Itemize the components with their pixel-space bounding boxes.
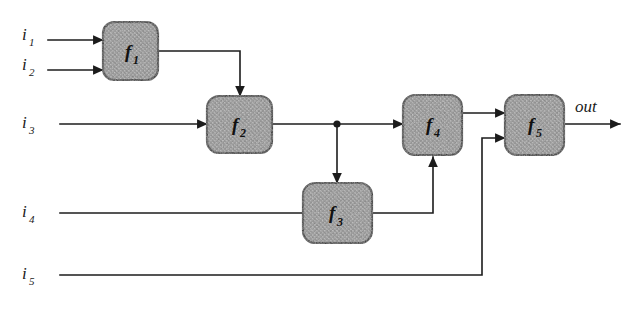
input-label-i3-subscript: 3 [28,124,35,136]
wire-f1-to-f2 [158,51,240,96]
node-f1[interactable]: f 1 [103,22,158,80]
diagram-canvas: f 1 f 2 f 3 f 4 f 5 [0,0,638,309]
node-f2[interactable]: f 2 [207,96,272,153]
node-f2-box [207,96,272,153]
output-label-out: out [575,97,598,116]
input-label-i3: i 3 [22,113,35,136]
node-f1-subscript: 1 [133,53,139,67]
input-label-i2: i 2 [22,55,35,78]
input-label-i5-base: i [22,264,27,283]
node-f5[interactable]: f 5 [505,95,564,155]
node-f3-box [303,183,372,243]
node-f4[interactable]: f 4 [403,95,462,155]
input-label-i3-base: i [22,113,27,132]
input-label-i4-subscript: 4 [29,213,35,225]
input-label-i5-subscript: 5 [29,275,35,287]
input-label-i2-base: i [22,55,27,74]
node-f5-subscript: 5 [536,126,542,140]
node-f3[interactable]: f 3 [303,183,372,243]
wire-junction-dot [333,120,340,127]
input-label-i1-base: i [22,25,27,44]
node-f3-subscript: 3 [336,215,343,229]
node-f4-subscript: 4 [433,126,440,140]
input-label-i2-subscript: 2 [29,66,35,78]
function-network-diagram: f 1 f 2 f 3 f 4 f 5 [0,0,638,309]
input-label-i4: i 4 [22,202,35,225]
wire-i5-to-f5 [60,138,505,275]
input-label-i5: i 5 [22,264,35,287]
wire-f3-to-f4 [372,157,433,213]
node-f2-subscript: 2 [239,126,246,140]
nodes-layer: f 1 f 2 f 3 f 4 f 5 [103,22,564,243]
input-label-i4-base: i [22,202,27,221]
node-f5-box [505,95,564,155]
input-label-i1: i 1 [22,25,35,48]
input-label-i1-subscript: 1 [29,36,35,48]
node-f4-box [403,95,462,155]
